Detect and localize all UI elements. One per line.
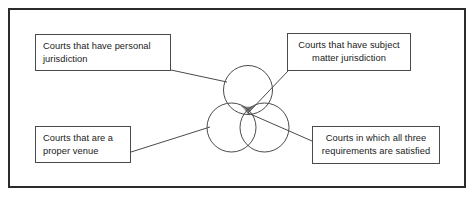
connector-subject-matter-jurisdiction	[248, 71, 288, 113]
proper-venue-circle	[207, 103, 256, 152]
connector-all-three	[248, 113, 312, 141]
venn-diagram-artwork	[0, 0, 476, 198]
callout-proper-venue: Courts that are a proper venue	[35, 126, 131, 163]
connector-personal-jurisdiction	[171, 70, 227, 82]
callout-proper-venue-label: Courts that are a proper venue	[43, 133, 113, 156]
connector-proper-venue	[131, 127, 210, 152]
callout-subject-matter-jurisdiction-label: Courts that have subject matter jurisdic…	[298, 40, 399, 63]
callout-all-three-requirements: Courts in which all three requirements a…	[312, 126, 440, 164]
jurisdiction-venn-figure: Courts that have personal jurisdiction C…	[0, 0, 476, 198]
callout-all-three-requirements-label: Courts in which all three requirements a…	[322, 133, 430, 156]
callout-personal-jurisdiction-label: Courts that have personal jurisdiction	[43, 41, 151, 64]
callout-personal-jurisdiction: Courts that have personal jurisdiction	[35, 34, 171, 71]
callout-subject-matter-jurisdiction: Courts that have subject matter jurisdic…	[287, 33, 411, 71]
